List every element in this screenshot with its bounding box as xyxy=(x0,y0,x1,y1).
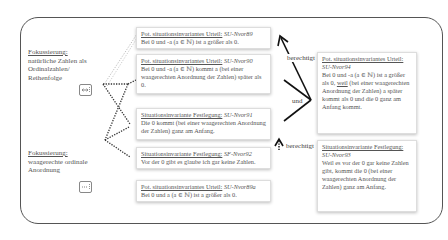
judgement-card-su-nvor94: Pot. situationsinvariantes Urteil: SU-Nv… xyxy=(317,52,417,134)
card-heading: Situationsinvariante Festlegung: xyxy=(141,111,222,118)
definition-card-su-nvor93: Situationsinvariante Festlegung: SU-Nvor… xyxy=(317,140,417,212)
label-und: und xyxy=(292,97,303,105)
card-text: Die 0 kommt (bei einer waagerechten Anor… xyxy=(141,119,266,134)
judgement-card-su-nvor90: Pot. situationsinvariantes Urteil: SU-Nv… xyxy=(136,54,271,94)
focus-line: Anordnung xyxy=(28,166,108,175)
judgement-card-su-nvor89: Pot. situationsinvariantes Urteil: SU-Nv… xyxy=(136,27,271,49)
definition-card-sf-nvor92: Situationsinvariante Festlegung: SF-Nvor… xyxy=(136,147,271,169)
judgement-card-su-nvor89a: Pot. situationsinvariantes Urteil: SU-Nv… xyxy=(136,180,271,202)
card-heading: Pot. situationsinvariantes Urteil: xyxy=(141,183,222,190)
card-code: SF-Nvor92 xyxy=(224,150,252,157)
card-text: Bei 0 und -a (a ∈ ℕ) kommt a (bei einer … xyxy=(141,65,261,88)
card-code: SU-Nvor94 xyxy=(322,63,351,70)
card-code: SU-Nvor89a xyxy=(224,183,256,190)
focus-title: Fokussierung: xyxy=(28,149,108,158)
card-code: SU-Nvor90 xyxy=(224,57,253,64)
focus-natural-numbers: Fokussierung: natürliche Zahlen als Ordi… xyxy=(28,48,108,82)
card-text: Bei 0 und a (a ∈ ℕ) ist a größer als 0. xyxy=(141,191,237,198)
focus-line: Ordinalzahlen/ xyxy=(28,65,108,74)
card-heading: Situationsinvariante Festlegung: xyxy=(322,143,403,150)
focus-line: waagerechte ordinale xyxy=(28,158,108,167)
card-text: Bei 0 und -a (a ∈ ℕ) ist a größer als 0. xyxy=(141,38,239,45)
card-text-weil: weil xyxy=(337,79,348,86)
card-text: Vor der 0 gibt es glaube ich gar keine Z… xyxy=(141,158,256,165)
card-text: Weil es vor der 0 gar keine Zahlen gibt,… xyxy=(322,159,409,190)
card-heading: Pot. situationsinvariantes Urteil: xyxy=(322,55,403,62)
dotted-line-icon xyxy=(79,181,92,193)
card-heading: Situationsinvariante Festlegung: xyxy=(141,150,222,157)
label-berechtigt-top: berechtigt xyxy=(287,54,315,62)
focus-title: Fokussierung: xyxy=(28,48,108,57)
card-heading: Pot. situationsinvariantes Urteil: xyxy=(141,30,222,37)
card-code: SU-Nvor89 xyxy=(224,30,253,37)
label-berechtigt-bottom: berechtigt xyxy=(286,142,314,150)
definition-card-su-nvor91: Situationsinvariante Festlegung: SU-Nvor… xyxy=(136,108,271,140)
card-code: SU-Nvor91 xyxy=(224,111,253,118)
card-heading: Pot. situationsinvariantes Urteil: xyxy=(141,57,222,64)
focus-line: Reihenfolge xyxy=(28,74,108,83)
focus-horizontal-order: Fokussierung: waagerechte ordinale Anord… xyxy=(28,149,108,175)
focus-line: natürliche Zahlen als xyxy=(28,57,108,66)
card-code: SU-Nvor93 xyxy=(322,151,351,158)
horizontal-arrow-icon xyxy=(79,84,92,96)
